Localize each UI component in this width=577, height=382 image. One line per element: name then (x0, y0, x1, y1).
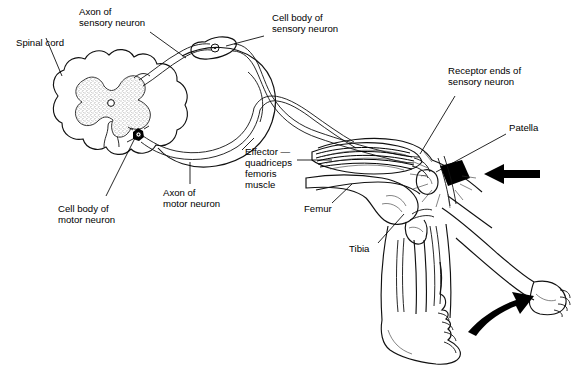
label-effector-line2: quadriceps (245, 157, 292, 168)
patella-bone (416, 170, 438, 195)
reflex-hammer-head (438, 156, 470, 206)
sensory-neuron-pathway (139, 37, 419, 163)
leader-lines (46, 32, 506, 243)
reflex-arc-figure: Spinal cord Axon of sensory neuron Cell … (0, 0, 577, 382)
tibia-bone (405, 220, 427, 314)
butterfly-gray-matter (75, 76, 150, 137)
label-femur: Femur (304, 203, 333, 214)
label-axon-sensory-line2: sensory neuron (79, 17, 145, 28)
label-cell-body-motor-line1: Cell body of (58, 203, 109, 214)
label-effector-line1: Effector — (245, 146, 291, 157)
reflex-arc-diagram: Spinal cord Axon of sensory neuron Cell … (0, 0, 577, 382)
label-effector-line4: muscle (245, 179, 275, 190)
label-axon-motor-line2: motor neuron (163, 198, 220, 209)
leg-kick-arrow (468, 292, 534, 336)
label-axon-motor-line1: Axon of (163, 187, 196, 198)
kicking-leg (442, 208, 534, 300)
motor-neuron-pathway (127, 96, 356, 160)
hammer-strike-arrow (484, 164, 540, 184)
label-receptor-ends-line2: sensory neuron (448, 76, 514, 87)
label-cell-body-motor-line2: motor neuron (58, 214, 115, 225)
label-effector-line3: femoris (245, 168, 277, 179)
kicking-foot (529, 281, 570, 317)
label-receptor-ends-line1: Receptor ends of (448, 65, 521, 76)
label-patella: Patella (509, 122, 539, 133)
label-cell-body-sensory-line1: Cell body of (272, 12, 323, 23)
label-tibia: Tibia (349, 243, 370, 254)
spinal-cord-cross-section (53, 50, 187, 155)
central-canal (108, 100, 115, 107)
resting-foot (381, 262, 460, 364)
label-spinal-cord: Spinal cord (16, 37, 64, 48)
label-cell-body-sensory-line2: sensory neuron (272, 23, 338, 34)
motor-neuron-cell-body (127, 126, 149, 142)
fibula-bone (430, 226, 441, 306)
label-axon-sensory-line1: Axon of (79, 6, 112, 17)
